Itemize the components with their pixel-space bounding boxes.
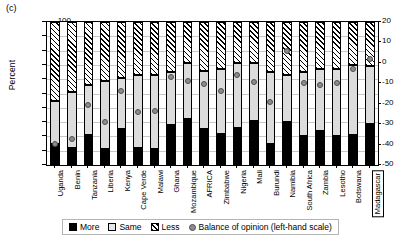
x-axis-label: Botswana (355, 170, 363, 203)
bar-segment-same (117, 78, 127, 129)
x-tick-mark (253, 165, 254, 168)
legend-item: Balance of opinion (left-hand scale) (189, 222, 332, 232)
legend-item-label: Less (162, 222, 180, 232)
bar-segment-more (249, 121, 259, 165)
y-tick-label-right: 10 (382, 37, 410, 45)
gridline (47, 136, 378, 137)
panel-label: (c) (6, 3, 17, 13)
bar-column (133, 22, 143, 165)
x-axis-label: Lesotho (339, 170, 347, 197)
bar-segment-less (299, 22, 309, 72)
bar-column (67, 22, 77, 165)
bar-segment-more (67, 148, 77, 165)
bar-segment-same (266, 72, 276, 144)
x-tick-mark (71, 165, 72, 168)
x-axis-label: Madagascar (372, 170, 384, 217)
bar-segment-same (282, 75, 292, 122)
x-tick-mark (236, 165, 237, 168)
bar-column (282, 22, 292, 165)
bar-column (100, 22, 110, 165)
x-axis-label: Uganda (57, 170, 65, 196)
x-tick-mark (286, 165, 287, 168)
bar-column (348, 22, 358, 165)
bar-column (332, 22, 342, 165)
bar-segment-more (199, 129, 209, 165)
x-tick-mark (369, 165, 370, 168)
y-tick-label-right: 0 (382, 58, 410, 66)
gridline (47, 79, 378, 80)
bar-segment-same (50, 101, 60, 144)
bar-column (84, 22, 94, 165)
bar-segment-less (133, 22, 143, 75)
x-axis-label: Ghana (173, 170, 181, 193)
x-tick-mark (87, 165, 88, 168)
bar-column (50, 22, 60, 165)
x-tick-mark (336, 165, 337, 168)
y-tick-label-right: -20 (382, 99, 410, 107)
bar-segment-less (100, 22, 110, 81)
bar-segment-less (117, 22, 127, 78)
bar-segment-more (183, 119, 193, 165)
bar-column (315, 22, 325, 165)
x-tick-mark (54, 165, 55, 168)
balance-of-opinion-marker (218, 88, 224, 94)
bar-segment-less (348, 22, 358, 65)
x-axis-label: Mozambique (190, 170, 198, 213)
balance-of-opinion-marker (317, 82, 323, 88)
bar-column (183, 22, 193, 165)
x-tick-mark (187, 165, 188, 168)
bar-column (266, 22, 276, 165)
gridline (47, 65, 378, 66)
hatched-square-icon (151, 223, 159, 231)
bar-segment-more (266, 144, 276, 165)
x-tick-mark (203, 165, 204, 168)
bar-segment-more (233, 128, 243, 165)
bar-column (150, 22, 160, 165)
bar-segment-more (315, 131, 325, 165)
x-axis-label: Namibia (289, 170, 297, 198)
balance-of-opinion-marker (251, 79, 257, 85)
gridline (47, 108, 378, 109)
gridline (47, 94, 378, 95)
bar-segment-more (299, 136, 309, 165)
x-tick-mark (352, 165, 353, 168)
legend-item: More (69, 222, 99, 232)
bar-segment-less (249, 22, 259, 63)
x-tick-mark (170, 165, 171, 168)
bar-segment-same (183, 63, 193, 119)
gridline (47, 36, 378, 37)
x-axis-label: Tanzania (91, 170, 99, 200)
light-gray-square-icon (108, 223, 116, 231)
x-axis-label: Kenya (124, 170, 132, 191)
chart-plot-inner (47, 22, 378, 165)
x-axis-label: Burundi (273, 170, 281, 196)
bar-segment-more (348, 135, 358, 165)
bar-segment-more (50, 144, 60, 165)
bar-segment-more (282, 122, 292, 165)
bar-segment-more (117, 129, 127, 165)
bar-column (166, 22, 176, 165)
bar-segment-less (233, 22, 243, 63)
chart-plot-area (46, 21, 379, 166)
bar-segment-more (150, 149, 160, 165)
bar-column (299, 22, 309, 165)
y-tick-label-right: -30 (382, 119, 410, 127)
x-tick-mark (104, 165, 105, 168)
bar-segment-same (84, 85, 94, 135)
y-tick-label-right: -40 (382, 140, 410, 148)
bar-segment-more (216, 134, 226, 165)
x-axis-label: Liberia (107, 170, 115, 193)
bar-segment-same (216, 69, 226, 133)
balance-of-opinion-marker (52, 141, 58, 147)
balance-of-opinion-marker (69, 136, 75, 142)
bar-segment-more (365, 124, 375, 165)
gridline (47, 151, 378, 152)
legend-item: Same (108, 222, 141, 232)
bar-segment-more (166, 125, 176, 165)
bar-column (249, 22, 259, 165)
x-axis-label: AFRICA (206, 170, 214, 198)
bar-segment-same (249, 63, 259, 120)
y-tick-label-right: -10 (382, 78, 410, 86)
x-tick-mark (269, 165, 270, 168)
bar-segment-same (365, 66, 375, 123)
